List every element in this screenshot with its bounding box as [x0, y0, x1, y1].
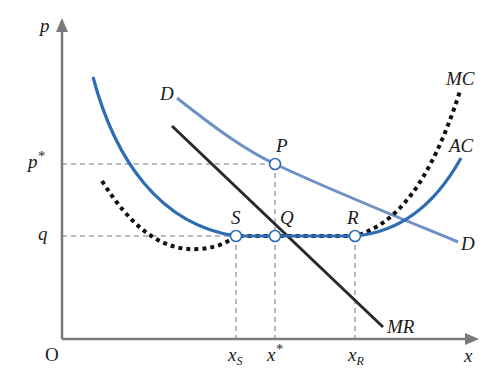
y-axis-label: p [38, 15, 50, 36]
mr-label: MR [386, 316, 415, 337]
point-q [270, 231, 281, 242]
q-label: q [38, 223, 48, 244]
demand-label-start: D [159, 83, 174, 104]
point-q-label: Q [280, 207, 294, 228]
point-s [231, 231, 242, 242]
axes [62, 28, 470, 339]
point-r [350, 231, 361, 242]
x-axis-arrow-icon [465, 333, 479, 345]
x-r-label: xR [347, 344, 364, 368]
monopoly-cost-diagram: p x O p* q xS x* xR D D MR AC MC P S Q R [0, 0, 499, 389]
point-p-label: P [275, 135, 288, 156]
origin-label: O [45, 344, 59, 365]
mc-label: MC [445, 68, 475, 89]
y-axis-arrow-icon [56, 18, 68, 32]
x-axis-label: x [463, 345, 473, 366]
x-s-label: xS [227, 344, 242, 368]
p-star-label: p* [26, 149, 45, 172]
point-s-label: S [231, 207, 241, 228]
demand-label-end: D [460, 233, 475, 254]
ac-label: AC [447, 135, 474, 156]
point-p [270, 159, 281, 170]
average-cost-curve [93, 77, 461, 236]
x-star-label: x* [266, 342, 282, 365]
point-r-label: R [346, 207, 359, 228]
